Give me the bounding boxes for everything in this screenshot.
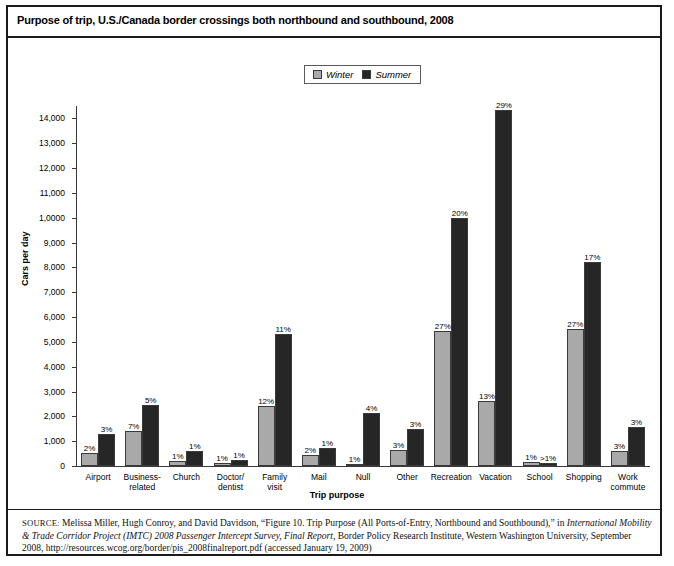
legend-swatch-summer-icon xyxy=(362,70,371,79)
x-axis-category-label: Doctor/ dentist xyxy=(208,472,252,492)
bar-group: 27%17% xyxy=(562,106,606,466)
bar-value-label: 1% xyxy=(172,452,184,461)
bar-summer: >1% xyxy=(540,463,557,466)
bar-value-label: 4% xyxy=(366,404,378,413)
bar-value-label: 13% xyxy=(479,392,495,401)
x-axis-category-label: Business- related xyxy=(120,472,164,492)
bar-group: 7%5% xyxy=(120,106,164,466)
bar-winter: 3% xyxy=(611,451,628,466)
y-axis-tick-label: 14,000 xyxy=(39,113,65,123)
bar-winter: 2% xyxy=(302,455,319,466)
legend-label-summer: Summer xyxy=(375,69,411,80)
bar-summer: 20% xyxy=(451,218,468,466)
x-axis-category-label: Recreation xyxy=(429,472,473,482)
bar-winter: 2% xyxy=(81,453,98,466)
source-divider xyxy=(8,509,660,510)
bar-value-label: 20% xyxy=(452,209,468,218)
bar-winter: 7% xyxy=(125,431,142,466)
source-citation: SOURCE: Melissa Miller, Hugh Conroy, and… xyxy=(22,517,652,555)
bar-value-label: 12% xyxy=(258,397,274,406)
x-axis-category-label: Mail xyxy=(297,472,341,482)
bar-winter: 1% xyxy=(346,464,363,466)
x-axis-category-label: Family visit xyxy=(253,472,297,492)
bar-summer: 1% xyxy=(186,451,203,466)
y-axis-tick-label: 12,000 xyxy=(39,163,65,173)
y-axis-tick-label: 4,000 xyxy=(44,362,65,372)
bar-value-label: 3% xyxy=(410,420,422,429)
bar-group: 1%1% xyxy=(164,106,208,466)
y-axis-tick-label: 11,000 xyxy=(40,188,65,198)
bar-winter: 1% xyxy=(214,463,231,466)
plot-area: 01,0002,0003,0004,0005,0006,0007,0008,00… xyxy=(76,106,650,466)
bar-value-label: 11% xyxy=(275,325,290,334)
bar-winter: 3% xyxy=(390,450,407,466)
bar-winter: 27% xyxy=(567,329,584,466)
bar-summer: 1% xyxy=(231,460,248,466)
bar-group: 3%3% xyxy=(385,106,429,466)
x-axis-category-label: Shopping xyxy=(562,472,606,482)
bar-value-label: 1% xyxy=(349,455,361,464)
bar-value-label: 29% xyxy=(496,101,512,110)
y-axis-tick-label: 3,000 xyxy=(44,387,65,397)
y-axis-tick: 0 xyxy=(72,466,77,467)
legend-swatch-winter-icon xyxy=(313,70,322,79)
source-prefix: SOURCE: xyxy=(22,518,60,528)
bar-group: 1%4% xyxy=(341,106,385,466)
bar-value-label: 1% xyxy=(233,451,245,460)
bar-group: 27%20% xyxy=(429,106,473,466)
bar-value-label: 3% xyxy=(614,442,626,451)
x-axis-category-label: Other xyxy=(385,472,429,482)
bar-value-label: 27% xyxy=(435,322,451,331)
bar-summer: 3% xyxy=(98,434,115,466)
y-axis-tick-label: 1,000 xyxy=(44,436,65,446)
y-axis-title: Cars per day xyxy=(20,231,30,286)
bar-value-label: 5% xyxy=(145,396,157,405)
bar-summer: 29% xyxy=(495,110,512,466)
y-axis-tick-label: 5,000 xyxy=(44,337,65,347)
x-axis-title: Trip purpose xyxy=(0,490,674,500)
bar-winter: 1% xyxy=(523,462,540,466)
bar-value-label: 3% xyxy=(101,425,113,434)
y-axis-tick-label: 9,000 xyxy=(44,238,65,248)
y-axis-tick-label: 6,000 xyxy=(44,312,65,322)
legend-item-summer: Summer xyxy=(362,69,411,80)
bar-value-label: 1% xyxy=(525,453,537,462)
bar-value-label: 3% xyxy=(631,418,643,427)
chart-page: Purpose of trip, U.S./Canada border cros… xyxy=(0,0,674,566)
y-axis-tick-label: 8,000 xyxy=(44,262,65,272)
x-axis-category-label: Vacation xyxy=(473,472,517,482)
x-axis-category-label: Work commute xyxy=(606,472,650,492)
y-axis-tick-label: 1,0000 xyxy=(39,213,65,223)
bar-summer: 5% xyxy=(142,405,159,466)
bar-summer: 17% xyxy=(584,262,601,466)
legend-label-winter: Winter xyxy=(326,69,353,80)
bar-value-label: 7% xyxy=(128,422,140,431)
bar-value-label: >1% xyxy=(540,454,556,463)
x-axis-category-label: Null xyxy=(341,472,385,482)
x-axis-category-label: School xyxy=(518,472,562,482)
bar-group: 13%29% xyxy=(473,106,517,466)
bar-value-label: 2% xyxy=(305,446,317,455)
bar-group: 12%11% xyxy=(253,106,297,466)
bar-value-label: 1% xyxy=(189,442,201,451)
bar-value-label: 17% xyxy=(584,253,600,262)
title-divider xyxy=(8,36,660,38)
chart-legend: Winter Summer xyxy=(304,65,421,84)
bar-value-label: 27% xyxy=(567,320,583,329)
y-axis-tick-label: 7,000 xyxy=(44,287,65,297)
bar-group: 3%3% xyxy=(606,106,650,466)
source-text-1: Melissa Miller, Hugh Conroy, and David D… xyxy=(60,518,567,528)
bar-winter: 1% xyxy=(169,461,186,466)
legend-item-winter: Winter xyxy=(313,69,353,80)
x-axis-category-label: Church xyxy=(164,472,208,482)
y-axis-tick-label: 2,000 xyxy=(44,411,65,421)
bar-value-label: 2% xyxy=(84,444,96,453)
bar-summer: 3% xyxy=(628,427,645,466)
bar-summer: 11% xyxy=(275,334,292,466)
bar-summer: 4% xyxy=(363,413,380,466)
bar-value-label: 1% xyxy=(322,439,334,448)
bar-group: 1%>1% xyxy=(518,106,562,466)
y-axis-tick-label: 13,000 xyxy=(39,138,65,148)
bar-group: 2%1% xyxy=(297,106,341,466)
bar-value-label: 3% xyxy=(393,441,405,450)
